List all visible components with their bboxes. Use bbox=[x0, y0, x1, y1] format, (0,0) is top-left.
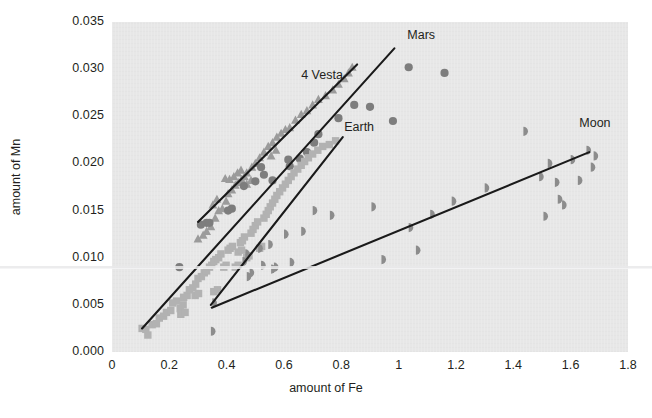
data-point-half-circle bbox=[371, 202, 376, 211]
x-tick-label: 1.4 bbox=[488, 358, 538, 372]
x-tick-label: 1.8 bbox=[603, 358, 652, 372]
data-point-circle bbox=[251, 177, 259, 185]
data-point-circle bbox=[175, 263, 183, 271]
data-point-square bbox=[217, 250, 224, 257]
data-point-half-circle bbox=[330, 211, 335, 220]
data-point-half-circle bbox=[485, 183, 490, 192]
data-point-half-circle bbox=[274, 263, 279, 272]
y-tick-label: 0.015 bbox=[48, 203, 104, 217]
data-point-half-circle bbox=[268, 240, 273, 249]
data-point-circle bbox=[257, 163, 265, 171]
x-tick-label: 0.2 bbox=[144, 358, 194, 372]
data-point-square bbox=[179, 301, 186, 308]
data-point-square bbox=[173, 297, 180, 304]
data-point-square bbox=[222, 262, 229, 269]
data-point-square bbox=[326, 141, 333, 148]
y-tick-label: 0.020 bbox=[48, 155, 104, 169]
data-point-half-circle bbox=[284, 230, 289, 239]
data-point-circle bbox=[260, 171, 268, 179]
x-tick-label: 0.8 bbox=[316, 358, 366, 372]
series-mars-points bbox=[175, 63, 448, 271]
x-tick-label: 1.6 bbox=[546, 358, 596, 372]
data-point-half-circle bbox=[381, 255, 386, 264]
x-tick-label: 0.6 bbox=[259, 358, 309, 372]
data-point-half-circle bbox=[290, 258, 295, 267]
data-point-half-circle bbox=[452, 197, 457, 206]
data-point-square bbox=[167, 307, 174, 314]
y-tick-label: 0.035 bbox=[48, 14, 104, 28]
data-point-square bbox=[241, 233, 248, 240]
x-tick-label: 0 bbox=[87, 358, 137, 372]
data-point-square bbox=[238, 246, 245, 253]
trend-line-mars bbox=[142, 48, 394, 328]
data-point-half-circle bbox=[523, 127, 528, 136]
series-label-mars: Mars bbox=[407, 28, 435, 42]
trendlines-layer bbox=[142, 48, 589, 328]
series-label-moon: Moon bbox=[579, 116, 610, 130]
data-point-circle bbox=[405, 63, 413, 71]
data-point-half-circle bbox=[313, 206, 318, 215]
data-point-circle bbox=[205, 219, 213, 227]
data-point-half-circle bbox=[594, 151, 599, 160]
data-point-half-circle bbox=[250, 268, 255, 277]
series-label-4-vesta: 4 Vesta bbox=[301, 68, 343, 82]
data-point-half-circle bbox=[301, 227, 306, 236]
y-axis-title: amount of Mn bbox=[9, 117, 23, 237]
trend-line-earth bbox=[211, 137, 343, 305]
data-point-circle bbox=[389, 117, 397, 125]
y-tick-label: 0.025 bbox=[48, 108, 104, 122]
data-point-circle bbox=[334, 114, 342, 122]
data-point-half-circle bbox=[543, 212, 548, 221]
data-point-half-circle bbox=[261, 261, 266, 270]
data-point-circle bbox=[228, 205, 236, 213]
data-point-half-circle bbox=[555, 178, 560, 187]
trend-line-moon bbox=[212, 152, 590, 308]
data-point-square bbox=[181, 309, 188, 316]
y-tick-label: 0.030 bbox=[48, 61, 104, 75]
data-point-half-circle bbox=[416, 246, 421, 255]
data-point-square bbox=[195, 290, 202, 297]
data-point-circle bbox=[350, 101, 358, 109]
data-point-circle bbox=[366, 103, 374, 111]
y-tick-label: 0.005 bbox=[48, 297, 104, 311]
x-tick-label: 0.4 bbox=[202, 358, 252, 372]
data-point-circle bbox=[440, 69, 448, 77]
data-point-half-circle bbox=[562, 200, 567, 209]
data-point-half-circle bbox=[578, 176, 583, 185]
x-tick-label: 1.2 bbox=[431, 358, 481, 372]
data-point-half-circle bbox=[558, 195, 563, 204]
series-earth-points bbox=[138, 137, 339, 339]
x-tick-label: 1 bbox=[374, 358, 424, 372]
series-label-earth: Earth bbox=[344, 120, 374, 134]
data-point-square bbox=[319, 143, 326, 150]
data-point-half-circle bbox=[211, 327, 216, 336]
x-axis-title: amount of Fe bbox=[0, 381, 652, 395]
data-point-half-circle bbox=[591, 163, 596, 172]
data-point-square bbox=[254, 218, 261, 225]
y-tick-label: 0.010 bbox=[48, 250, 104, 264]
y-tick-label: 0.000 bbox=[48, 344, 104, 358]
markers-layer bbox=[138, 63, 598, 339]
data-point-square bbox=[144, 331, 151, 338]
data-point-circle bbox=[240, 182, 248, 190]
figure-root: 0.0000.0050.0100.0150.0200.0250.0300.035… bbox=[0, 0, 652, 418]
